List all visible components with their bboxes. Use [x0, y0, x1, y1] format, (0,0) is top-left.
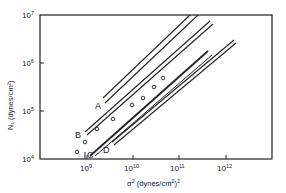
label-c: C [87, 150, 94, 160]
y-tick-label-7: 107 [22, 10, 34, 20]
curve-d [112, 40, 236, 145]
y-tick-label-5: 105 [22, 106, 34, 116]
data-point [161, 76, 165, 80]
y-tick-label-6: 106 [22, 58, 34, 68]
data-point [130, 103, 134, 107]
x-tick-labels: 109 1010 1011 1012 [80, 163, 232, 173]
x-tick-label-12: 1012 [217, 163, 232, 173]
data-point [95, 127, 99, 131]
y-axis-title: N₁ (dynes/cm²) [6, 80, 15, 130]
y-tick-label-4: 104 [22, 154, 34, 164]
data-points [75, 76, 165, 154]
x-tick-label-11: 1011 [170, 163, 185, 173]
curve-c [90, 51, 212, 156]
x-tick-label-10: 1010 [124, 163, 139, 173]
y-tick-labels: 107 106 105 104 [22, 10, 34, 164]
data-point [75, 150, 79, 154]
x-ticks [87, 155, 226, 159]
curve-a [103, 15, 198, 103]
x-axis-title: σ2 (dynes/cm2)2 [127, 178, 180, 188]
chart: 107 106 105 104 109 1010 1011 1012 σ2 (d… [0, 0, 286, 193]
data-point [111, 117, 115, 121]
label-b: B [75, 130, 81, 140]
data-point [152, 85, 156, 89]
label-d: D [103, 145, 110, 155]
x-tick-label-9: 109 [80, 163, 92, 173]
data-point [141, 96, 145, 100]
label-a: A [95, 101, 101, 111]
data-point [83, 140, 87, 144]
